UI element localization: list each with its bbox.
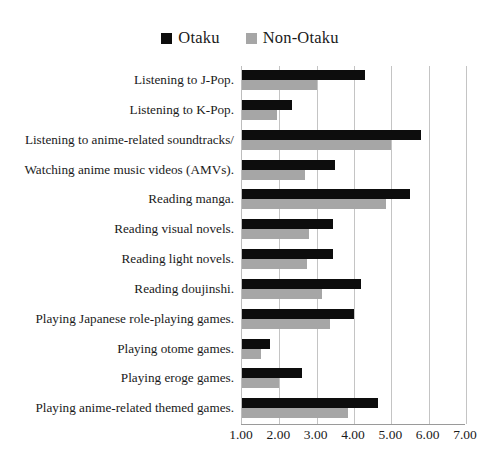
bar-group	[242, 160, 465, 180]
bar-non-otaku	[242, 378, 279, 388]
bar-chart: Otaku Non-Otaku Listening to J-Pop.Liste…	[0, 0, 500, 475]
bar-non-otaku	[242, 229, 309, 239]
category-label: Playing anime-related themed games.	[36, 401, 234, 414]
bar-group	[242, 249, 465, 269]
bar-non-otaku	[242, 140, 391, 150]
bar-otaku	[242, 339, 270, 349]
x-axis-tick-labels: 1.002.003.004.005.006.007.00	[0, 428, 500, 454]
category-label: Reading visual novels.	[114, 222, 234, 235]
legend-entry-non-otaku: Non-Otaku	[246, 30, 339, 47]
x-axis-line	[241, 424, 465, 425]
legend-entry-otaku: Otaku	[161, 30, 219, 47]
bar-otaku	[242, 309, 354, 319]
category-label: Watching anime music videos (AMVs).	[24, 163, 234, 176]
plot-wrapper: Listening to J-Pop.Listening to K-Pop.Li…	[0, 66, 500, 424]
bar-group	[242, 130, 465, 150]
chart-legend: Otaku Non-Otaku	[0, 30, 500, 47]
x-tick-label: 5.00	[379, 428, 403, 442]
bar-group	[242, 279, 465, 299]
category-label: Listening to K-Pop.	[130, 103, 234, 116]
bar-otaku	[242, 249, 333, 259]
bar-otaku	[242, 368, 302, 378]
category-label: Reading doujinshi.	[134, 282, 234, 295]
bar-group	[242, 219, 465, 239]
bar-non-otaku	[242, 289, 322, 299]
category-axis-labels: Listening to J-Pop.Listening to K-Pop.Li…	[0, 66, 238, 424]
bar-otaku	[242, 160, 335, 170]
bar-non-otaku	[242, 259, 307, 269]
category-label: Playing Japanese role-playing games.	[36, 312, 235, 325]
legend-swatch-square-icon	[161, 33, 172, 44]
plot-area	[241, 66, 465, 424]
bar-non-otaku	[242, 349, 261, 359]
legend-swatch-square-icon	[246, 33, 257, 44]
bar-group	[242, 309, 465, 329]
x-tick-label: 4.00	[341, 428, 365, 442]
bar-otaku	[242, 70, 365, 80]
bar-otaku	[242, 219, 333, 229]
bar-group	[242, 70, 465, 90]
category-label: Playing eroge games.	[121, 371, 234, 384]
category-label: Listening to anime-related soundtracks/	[25, 133, 234, 146]
bar-group	[242, 339, 465, 359]
x-tick-label: 2.00	[267, 428, 291, 442]
category-label: Reading light novels.	[122, 252, 234, 265]
bar-non-otaku	[242, 80, 317, 90]
legend-label: Non-Otaku	[263, 30, 339, 47]
bar-non-otaku	[242, 408, 348, 418]
bar-non-otaku	[242, 110, 277, 120]
category-label: Reading manga.	[148, 192, 234, 205]
bar-non-otaku	[242, 199, 386, 209]
bar-non-otaku	[242, 319, 330, 329]
gridline	[466, 66, 467, 424]
bar-otaku	[242, 398, 378, 408]
bar-group	[242, 189, 465, 209]
bar-otaku	[242, 100, 292, 110]
bar-otaku	[242, 279, 361, 289]
category-label: Playing otome games.	[117, 342, 234, 355]
bar-non-otaku	[242, 170, 305, 180]
x-tick-label: 3.00	[304, 428, 328, 442]
legend-label: Otaku	[178, 30, 219, 47]
x-tick-label: 1.00	[229, 428, 253, 442]
bar-group	[242, 368, 465, 388]
x-tick-label: 6.00	[416, 428, 440, 442]
bar-otaku	[242, 189, 410, 199]
x-tick-label: 7.00	[453, 428, 477, 442]
category-label: Listening to J-Pop.	[134, 73, 234, 86]
bar-group	[242, 100, 465, 120]
bar-otaku	[242, 130, 421, 140]
bar-group	[242, 398, 465, 418]
